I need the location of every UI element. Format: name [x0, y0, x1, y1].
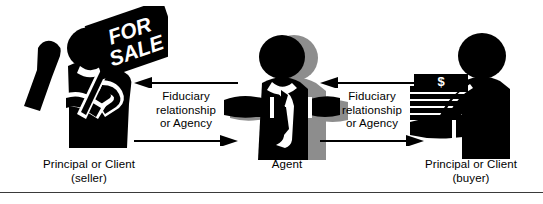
figure-buyer: $: [404, 30, 534, 160]
dollar-symbol: $: [437, 74, 445, 89]
bottom-divider: [0, 192, 543, 193]
caption-agent: Agent: [237, 158, 337, 172]
agency-relationship-diagram: FOR SALE Principal or Client (seller) Fi…: [0, 0, 543, 204]
caption-seller: Principal or Client (seller): [18, 158, 160, 185]
caption-buyer: Principal or Client (buyer): [400, 158, 542, 185]
buyer-figure-icon: $: [404, 30, 534, 160]
